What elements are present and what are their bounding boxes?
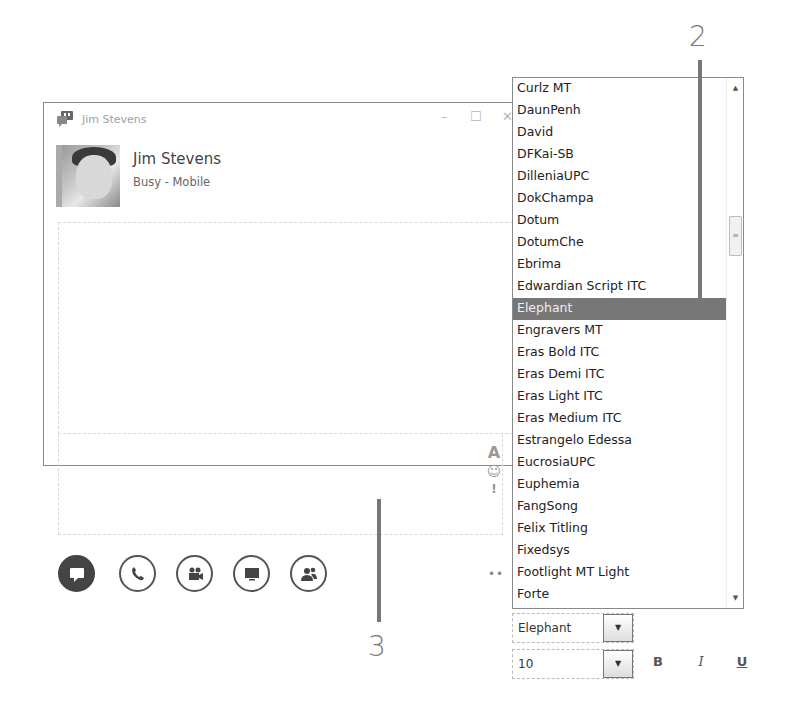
phone-icon — [129, 565, 147, 583]
font-option[interactable]: DFKai-SB — [513, 144, 727, 166]
window-title: Jim Stevens — [82, 113, 147, 126]
font-option[interactable]: Felix Titling — [513, 518, 727, 540]
contact-name[interactable]: Jim Stevens — [133, 150, 221, 168]
minimize-button[interactable]: – — [441, 109, 448, 124]
font-option[interactable]: Eras Light ITC — [513, 386, 727, 408]
contact-avatar[interactable] — [56, 145, 120, 207]
im-button[interactable] — [58, 555, 95, 592]
font-option[interactable]: Footlight MT Light — [513, 562, 727, 584]
call-button[interactable] — [119, 555, 156, 592]
font-option[interactable]: Curlz MT — [513, 78, 727, 100]
lync-app-icon — [56, 110, 74, 128]
font-list-items: Curlz MT DaunPenh David DFKai-SB Dilleni… — [513, 78, 727, 606]
font-option[interactable]: DokChampa — [513, 188, 727, 210]
size-dropdown-arrow-icon[interactable]: ▼ — [603, 650, 633, 678]
emoticon-icon[interactable]: ☺ — [486, 463, 502, 481]
callout-3-line — [377, 499, 381, 622]
underline-button[interactable]: U — [732, 654, 752, 669]
font-option[interactable]: Eras Bold ITC — [513, 342, 727, 364]
font-option[interactable]: Edwardian Script ITC — [513, 276, 727, 298]
font-option[interactable]: FangSong — [513, 496, 727, 518]
callout-3-label: 3 — [368, 630, 386, 663]
contact-status: Busy - Mobile — [133, 175, 210, 189]
importance-icon[interactable]: ! — [486, 481, 502, 496]
font-option[interactable]: DaunPenh — [513, 100, 727, 122]
participants-button[interactable] — [290, 555, 327, 592]
font-option-selected[interactable]: Elephant — [513, 298, 727, 320]
font-option[interactable]: DilleniaUPC — [513, 166, 727, 188]
font-option[interactable]: Ebrima — [513, 254, 727, 276]
message-input[interactable] — [58, 434, 503, 535]
callout-2-label: 2 — [689, 20, 707, 53]
font-option[interactable]: Eras Medium ITC — [513, 408, 727, 430]
font-list-scrollbar[interactable]: ▲ ≡ ▼ — [726, 78, 743, 608]
font-dropdown-list[interactable]: Curlz MT DaunPenh David DFKai-SB Dilleni… — [512, 77, 744, 609]
font-option[interactable]: David — [513, 122, 727, 144]
video-camera-icon — [186, 565, 204, 583]
present-button[interactable] — [233, 555, 270, 592]
avatar-face — [76, 155, 112, 199]
font-option[interactable]: Eras Demi ITC — [513, 364, 727, 386]
callout-2-line — [698, 60, 702, 316]
people-icon — [300, 565, 318, 583]
font-name-select[interactable]: Elephant ▼ — [512, 613, 634, 643]
font-size-value: 10 — [518, 657, 533, 671]
font-option[interactable]: Euphemia — [513, 474, 727, 496]
font-option[interactable]: Engravers MT — [513, 320, 727, 342]
font-dropdown-arrow-icon[interactable]: ▼ — [603, 614, 633, 642]
font-option[interactable]: Forte — [513, 584, 727, 606]
font-option[interactable]: Dotum — [513, 210, 727, 232]
bold-button[interactable]: B — [648, 654, 668, 669]
speech-bubble-icon — [68, 565, 86, 583]
font-icon[interactable]: A — [486, 443, 502, 463]
font-option[interactable]: Estrangelo Edessa — [513, 430, 727, 452]
conversation-history — [58, 222, 518, 434]
font-option[interactable]: Fixedsys — [513, 540, 727, 562]
title-bar: Jim Stevens – ☐ ✕ — [44, 103, 519, 137]
conversation-window: Jim Stevens – ☐ ✕ Jim Stevens Busy - Mob… — [43, 102, 520, 466]
monitor-icon — [243, 565, 261, 583]
scroll-thumb[interactable]: ≡ — [729, 216, 742, 256]
scroll-up-arrow-icon[interactable]: ▲ — [727, 80, 744, 96]
more-options-button[interactable]: •• — [488, 567, 504, 581]
font-option[interactable]: EucrosiaUPC — [513, 452, 727, 474]
italic-button[interactable]: I — [691, 654, 711, 669]
font-name-value: Elephant — [518, 621, 571, 635]
maximize-button[interactable]: ☐ — [470, 109, 482, 124]
font-size-select[interactable]: 10 ▼ — [512, 649, 634, 679]
scroll-down-arrow-icon[interactable]: ▼ — [727, 590, 744, 606]
compose-tools: A ☺ ! — [486, 443, 502, 496]
font-option[interactable]: DotumChe — [513, 232, 727, 254]
video-button[interactable] — [176, 555, 213, 592]
